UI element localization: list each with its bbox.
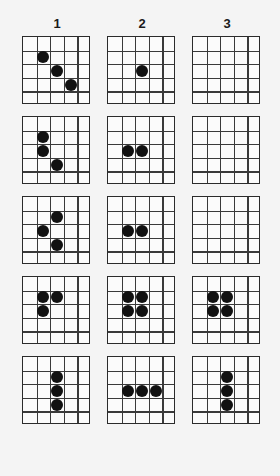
grid-dot[interactable] [136,225,148,237]
grid-line-horizontal [23,304,89,305]
grid-panel-r1-c1[interactable] [22,36,90,104]
grid-dot[interactable] [221,291,233,303]
grid-panel-r3-c1[interactable] [22,196,90,264]
grid-panel-r2-c1[interactable] [22,116,90,184]
grid-panel-wrapper [22,196,92,264]
grid-line-vertical [220,37,221,103]
grid-panel-r4-c1[interactable] [22,276,90,344]
grid-dot[interactable] [51,399,63,411]
grid-dot[interactable] [136,385,148,397]
grid-dot[interactable] [150,385,162,397]
grid-line-horizontal [23,224,89,225]
grid-dot[interactable] [37,305,49,317]
grid-dot[interactable] [51,65,63,77]
grid-line-horizontal [108,91,174,92]
grid-panel-r3-c2[interactable] [107,196,175,264]
grid-line-vertical [64,37,65,103]
grid-line-horizontal [193,158,259,159]
grid-line-horizontal [23,131,89,132]
grid-line-horizontal [193,78,259,79]
grid-panel-r1-c3[interactable] [192,36,260,104]
grid-panel-wrapper [22,116,92,184]
grid-line-horizontal [108,158,174,159]
grid-line-vertical [64,277,65,343]
grid-dot[interactable] [221,385,233,397]
grid-line-horizontal [193,91,259,92]
grid-line-horizontal [193,64,259,65]
grid-line-horizontal [193,411,259,412]
grid-dot[interactable] [122,145,134,157]
grid-line-horizontal [23,318,89,319]
grid-dot[interactable] [136,305,148,317]
grid-dot[interactable] [51,211,63,223]
grid-line-vertical [234,357,235,423]
grid-line-vertical [149,277,150,343]
grid-dot[interactable] [207,305,219,317]
grid-dot[interactable] [65,79,77,91]
grid-line-vertical [234,197,235,263]
grid-line-vertical [247,117,248,183]
grid-panel-wrapper [192,276,262,344]
grid-line-horizontal [193,211,259,212]
grid-panel-r4-c3[interactable] [192,276,260,344]
grid-row [22,36,280,104]
grid-dot[interactable] [122,305,134,317]
grid-panel-r3-c3[interactable] [192,196,260,264]
grid-line-vertical [37,357,38,423]
grid-dot[interactable] [221,399,233,411]
grid-panel-r4-c2[interactable] [107,276,175,344]
grid-panel-wrapper [192,196,262,264]
grid-line-horizontal [193,131,259,132]
grid-dot[interactable] [207,291,219,303]
grid-dot[interactable] [122,225,134,237]
grid-dot[interactable] [221,371,233,383]
grid-dot[interactable] [51,239,63,251]
grid-dot[interactable] [122,291,134,303]
grid-line-vertical [207,37,208,103]
grid-line-vertical [247,37,248,103]
grid-panel-container [22,36,280,436]
grid-panel-wrapper [22,36,92,104]
grid-panel-r2-c2[interactable] [107,116,175,184]
grid-line-vertical [220,197,221,263]
grid-dot[interactable] [51,291,63,303]
grid-dot[interactable] [136,291,148,303]
grid-line-vertical [77,117,78,183]
grid-dot[interactable] [221,305,233,317]
grid-dot[interactable] [51,159,63,171]
grid-dot[interactable] [136,145,148,157]
grid-panel-r5-c1[interactable] [22,356,90,424]
grid-line-vertical [64,357,65,423]
grid-line-horizontal [108,411,174,412]
grid-line-horizontal [108,211,174,212]
grid-line-vertical [234,37,235,103]
grid-line-vertical [149,37,150,103]
grid-line-horizontal [108,171,174,172]
grid-panel-r2-c3[interactable] [192,116,260,184]
grid-line-horizontal [193,318,259,319]
grid-dot[interactable] [37,225,49,237]
grid-panel-wrapper [107,196,177,264]
grid-dot[interactable] [37,145,49,157]
grid-panel-r1-c2[interactable] [107,36,175,104]
grid-line-horizontal [193,51,259,52]
grid-panel-r5-c3[interactable] [192,356,260,424]
grid-panel-wrapper [22,356,92,424]
grid-panel-wrapper [107,116,177,184]
grid-dot[interactable] [136,65,148,77]
grid-panel-r5-c2[interactable] [107,356,175,424]
grid-dot[interactable] [51,385,63,397]
grid-dot[interactable] [37,291,49,303]
grid-dot[interactable] [122,385,134,397]
grid-line-vertical [220,117,221,183]
grid-dot[interactable] [51,371,63,383]
grid-line-horizontal [108,251,174,252]
grid-line-vertical [50,117,51,183]
grid-line-horizontal [193,144,259,145]
grid-dot[interactable] [37,131,49,143]
grid-line-horizontal [23,251,89,252]
grid-line-vertical [207,357,208,423]
grid-line-horizontal [23,51,89,52]
grid-dot[interactable] [37,51,49,63]
grid-matrix-sheet: 1 2 3 [0,0,280,476]
